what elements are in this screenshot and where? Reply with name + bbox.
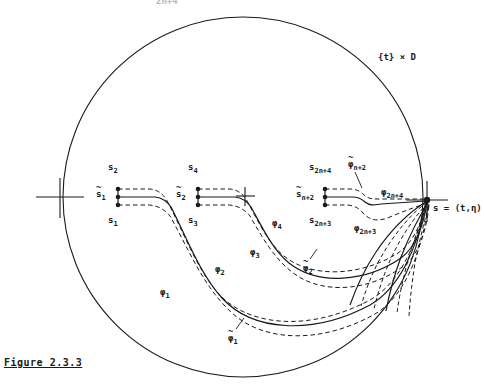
curve-label-phi-3: φ3	[250, 248, 260, 257]
leader-line-phi-n2-tilde	[355, 172, 362, 188]
start-label-s2n3: s2n+3	[309, 216, 331, 225]
band-2-group	[198, 189, 429, 288]
start-label-s1: s1	[108, 216, 118, 225]
band-n-group	[325, 189, 428, 220]
figure-container: 2n+4 {t} × D s = (t,η) s2 ~s1 s1 s4 ~s2 …	[0, 0, 484, 390]
middle-ellipsis-cross-marker	[236, 187, 255, 206]
start-label-s1-tilde: ~s1	[96, 190, 106, 199]
disk-domain-label: {t} × D	[378, 53, 416, 62]
curve-label-phi-2: φ2	[215, 265, 225, 274]
curve-label-phi-n2-tilde: ~φn+2	[348, 160, 366, 169]
band-1-solid-center	[118, 197, 426, 326]
curve-label-phi-2n3: φ2n+3	[354, 224, 376, 233]
start-label-s2-tilde: ~s2	[176, 190, 186, 199]
figure-caption: Figure 2.3.3	[4, 357, 82, 368]
start-label-s4: s4	[188, 163, 198, 172]
left-edge-tick-marker	[36, 178, 84, 218]
band-n-solid-center	[325, 197, 426, 205]
curve-label-phi-4: φ4	[272, 219, 282, 228]
start-label-sn2-tilde: ~sn+2	[296, 190, 314, 199]
curve-label-phi-2-tilde: ~φ2	[303, 264, 313, 273]
start-group-2-nodes	[196, 187, 201, 208]
endpoint-fan-bundle	[350, 201, 429, 316]
band-1-group	[118, 189, 428, 336]
curve-label-phi-2n4: φ2n+4	[381, 188, 403, 197]
start-label-s3: s3	[188, 216, 198, 225]
top-cut-off-label: 2n+4	[156, 0, 178, 6]
curve-label-phi-1: φ1	[160, 288, 170, 297]
start-label-s2: s2	[108, 163, 118, 172]
band-1-dashed-upper	[118, 189, 424, 321]
start-label-s2n4: s2n+4	[309, 163, 331, 172]
start-group-1-nodes	[116, 187, 121, 208]
endpoint-label: s = (t,η)	[433, 204, 482, 213]
leader-line-phi-2-tilde	[310, 249, 317, 259]
curve-label-phi-1-tilde: ~φ1	[228, 334, 238, 343]
start-group-n-nodes	[323, 187, 328, 208]
